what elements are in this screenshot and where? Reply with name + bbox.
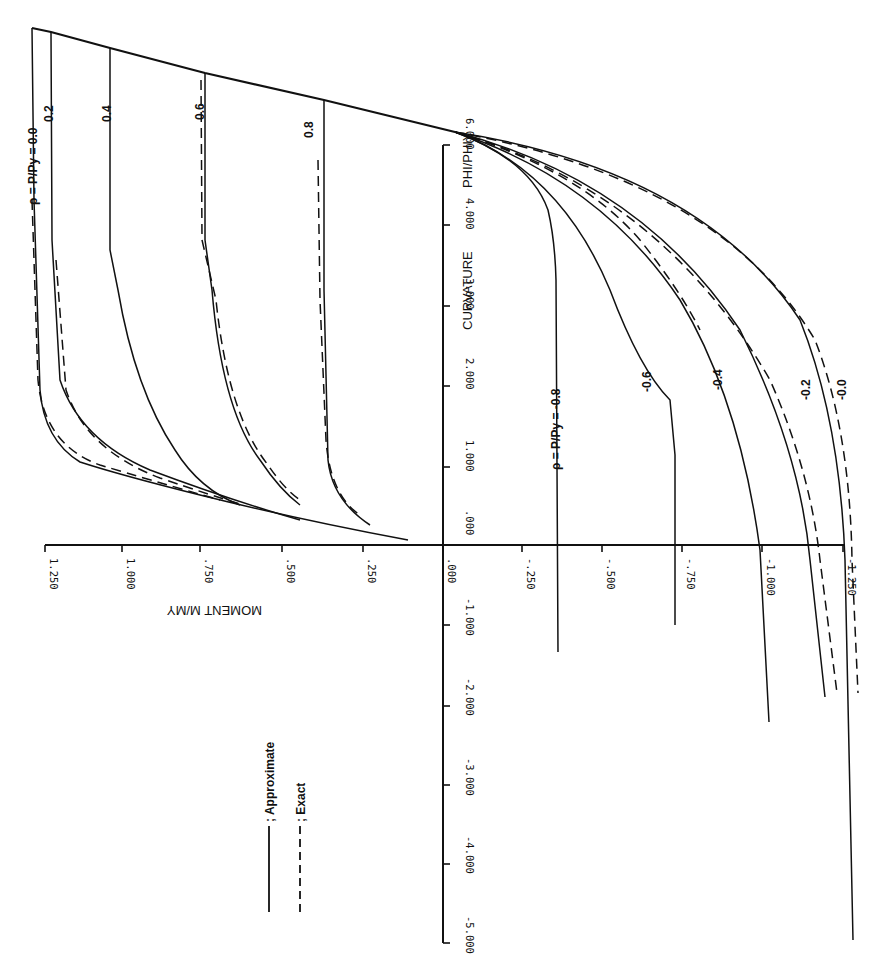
curve-p06-approx xyxy=(205,73,300,505)
svg-text:2.000: 2.000 xyxy=(464,358,476,390)
curve-p04-approx xyxy=(110,48,240,505)
curvature-tick-labels: .000 1.000 2.000 3.000 4.000 6.000 -1.00… xyxy=(464,118,476,954)
svg-text:.000: .000 xyxy=(446,558,458,583)
curve-pneg04-approx xyxy=(455,132,769,722)
svg-text:-3.000: -3.000 xyxy=(464,758,476,796)
svg-text:-.250: -.250 xyxy=(525,558,537,590)
curve-p02-approx xyxy=(51,32,300,520)
curve-pneg02-exact xyxy=(455,132,837,693)
svg-text:1.000: 1.000 xyxy=(125,558,137,590)
svg-text:-.750: -.750 xyxy=(685,558,697,590)
svg-text:-5.000: -5.000 xyxy=(464,916,476,954)
svg-text:-1.000: -1.000 xyxy=(464,598,476,636)
svg-text:.000: .000 xyxy=(464,510,476,535)
label-p06: 0.6 xyxy=(193,103,207,120)
label-pneg04: -0.4 xyxy=(711,369,725,390)
label-p02: 0.2 xyxy=(42,105,56,122)
label-p04: 0.4 xyxy=(100,105,114,122)
curve-pneg00-approx xyxy=(455,132,853,940)
moment-curvature-chart: 1.250 1.000 .750 .500 .250 .000 -.250 -.… xyxy=(0,0,891,976)
legend-exact-label: ; Exact xyxy=(294,783,308,822)
svg-text:-.500: -.500 xyxy=(605,558,617,590)
curve-pneg00-exact xyxy=(455,132,858,693)
legend-approx-label: ; Approximate xyxy=(263,741,277,822)
curve-labels-positive: ρ = P/Py = 0.0 0.2 0.4 0.6 0.8 xyxy=(26,103,316,205)
curve-pneg02-approx xyxy=(455,132,825,697)
svg-text:.750: .750 xyxy=(203,558,215,583)
label-pneg06: -0.6 xyxy=(640,371,654,392)
svg-text:-2.000: -2.000 xyxy=(464,678,476,716)
moment-tick-labels: 1.250 1.000 .750 .500 .250 .000 -.250 -.… xyxy=(48,558,858,596)
svg-text:4.000: 4.000 xyxy=(464,198,476,230)
svg-text:1.000: 1.000 xyxy=(464,440,476,472)
svg-text:-4.000: -4.000 xyxy=(464,836,476,874)
curve-labels-negative: ρ = P/Py = -0.8 -0.6 -0.4 -0.2 -0.0 xyxy=(549,369,849,470)
svg-text:-1.000: -1.000 xyxy=(765,558,777,596)
svg-text:.500: .500 xyxy=(285,558,297,583)
curve-p08-approx xyxy=(324,100,370,525)
label-pneg02: -0.2 xyxy=(799,379,813,400)
curvature-axis-title-left: CURVATURE xyxy=(460,251,475,330)
svg-text:.250: .250 xyxy=(366,558,378,583)
svg-text:1.250: 1.250 xyxy=(48,558,60,590)
legend: ; Approximate ; Exact xyxy=(263,741,308,912)
label-p00: ρ = P/Py = 0.0 xyxy=(26,127,40,205)
curvature-axis-title-right: PHI/PHIY xyxy=(460,132,475,188)
curve-p00-approx xyxy=(32,28,408,540)
label-pneg08: ρ = P/Py = -0.8 xyxy=(549,388,563,470)
label-p08: 0.8 xyxy=(302,121,316,138)
curve-p00-exact xyxy=(32,200,220,500)
label-pneg00: -0.0 xyxy=(835,379,849,400)
moment-axis-title: MOMENT M/MY xyxy=(167,603,262,618)
elastic-envelope xyxy=(32,28,455,132)
curve-p06-exact xyxy=(201,80,300,500)
